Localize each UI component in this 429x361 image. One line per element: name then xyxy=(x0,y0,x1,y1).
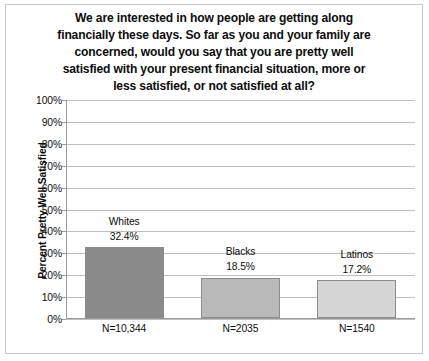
y-axis-tick-label: 20% xyxy=(18,270,62,281)
gridline xyxy=(66,210,415,211)
chart-title-line-2: financially these days. So far as you an… xyxy=(34,27,394,44)
bar-value-label: 32.4% xyxy=(74,230,174,245)
x-axis-line xyxy=(66,318,415,319)
gridline xyxy=(66,122,415,123)
bar-category-label: Whites xyxy=(74,215,174,230)
chart-title-line-3: concerned, would you say that you are pr… xyxy=(34,44,394,61)
bar[interactable] xyxy=(85,247,164,318)
chart-title-line-4: satisfied with your present financial si… xyxy=(34,61,394,78)
bar-annotation: Whites32.4% xyxy=(74,215,174,244)
plot-area: Whites32.4%Blacks18.5%Latinos17.2% xyxy=(66,100,415,319)
y-axis-line xyxy=(66,100,67,319)
y-axis-tick-label: 40% xyxy=(18,226,62,237)
chart-title: We are interested in how people are gett… xyxy=(34,10,394,95)
y-axis-tick-label: 0% xyxy=(18,314,62,325)
chart-frame: We are interested in how people are gett… xyxy=(5,4,423,354)
gridline xyxy=(66,319,415,320)
gridline xyxy=(66,144,415,145)
chart-title-line-1: We are interested in how people are gett… xyxy=(34,10,394,27)
bar-annotation: Latinos17.2% xyxy=(307,248,407,277)
gridline xyxy=(66,100,415,101)
gridline xyxy=(66,188,415,189)
bar[interactable] xyxy=(317,280,396,318)
y-axis-tick xyxy=(62,319,66,320)
y-axis-tick-label: 90% xyxy=(18,116,62,127)
x-axis-tick-labels: N=10,344N=2035N=1540 xyxy=(66,323,415,343)
y-axis-tick-label: 60% xyxy=(18,182,62,193)
bar-category-label: Latinos xyxy=(307,248,407,263)
gridline xyxy=(66,166,415,167)
x-axis-tick-label: N=10,344 xyxy=(74,323,174,334)
y-axis-tick-labels: 100%90%80%70%60%50%40%30%20%10%0% xyxy=(14,100,62,319)
y-axis-tick-label: 10% xyxy=(18,292,62,303)
y-axis-tick-label: 100% xyxy=(18,95,62,106)
chart-title-line-5: less satisfied, or not satisfied at all? xyxy=(34,78,394,95)
bar[interactable] xyxy=(201,278,280,319)
bar-annotation: Blacks18.5% xyxy=(191,245,291,274)
bar-value-label: 17.2% xyxy=(307,263,407,278)
x-axis-tick-label: N=1540 xyxy=(307,323,407,334)
bar-category-label: Blacks xyxy=(191,245,291,260)
y-axis-tick-label: 30% xyxy=(18,248,62,259)
x-axis-tick-label: N=2035 xyxy=(191,323,291,334)
bar-value-label: 18.5% xyxy=(191,260,291,275)
y-axis-tick-label: 80% xyxy=(18,138,62,149)
y-axis-tick-label: 70% xyxy=(18,160,62,171)
y-axis-tick-label: 50% xyxy=(18,204,62,215)
